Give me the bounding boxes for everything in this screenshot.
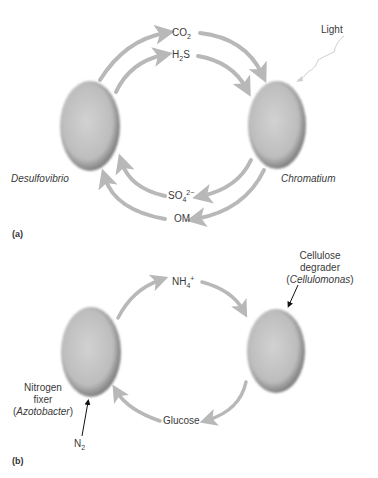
arrow-nh4-in xyxy=(202,282,243,310)
panel-b-label: (b) xyxy=(12,456,24,466)
chromatium-label: Chromatium xyxy=(281,173,335,185)
nh4-label: NH4+ xyxy=(172,276,194,288)
desulfovibrio-cell xyxy=(60,81,120,171)
panel-b-cells xyxy=(61,307,305,397)
chromatium-cell xyxy=(248,81,306,169)
h2s-tail: S xyxy=(183,49,190,60)
panel-a-label: (a) xyxy=(12,229,23,239)
panel-a-cells xyxy=(60,81,306,171)
so4-sup: 2− xyxy=(186,189,194,196)
arrow-nh4-out xyxy=(118,280,160,318)
arrow-so4-out xyxy=(202,160,251,196)
h2s-label: H2S xyxy=(172,49,190,61)
so4-sub: 4 xyxy=(182,196,186,203)
n2-label: N2 xyxy=(74,438,85,450)
cellulomonas-label: Cellulose degrader (Cellulomonas) xyxy=(280,250,360,286)
panel-b-arrows xyxy=(117,280,246,421)
co2-label: CO2 xyxy=(172,27,191,39)
azotobacter-name: Azotobacter xyxy=(16,406,69,417)
azotobacter-label: Nitrogen fixer (Azotobacter) xyxy=(10,382,76,418)
azotobacter-line2: fixer xyxy=(10,394,76,406)
n2-input-arrow-icon xyxy=(82,402,88,436)
arrow-glucose-out xyxy=(208,382,246,420)
azotobacter-line1: Nitrogen xyxy=(10,382,76,394)
cellulomonas-line1: Cellulose xyxy=(280,250,360,262)
cellulomonas-line2: degrader xyxy=(280,262,360,274)
cellulomonas-cell xyxy=(247,309,305,393)
so4-label: SO42− xyxy=(168,190,194,202)
co2-base: CO xyxy=(172,27,187,38)
so4-base: SO xyxy=(168,190,182,201)
nh4-sub: 4 xyxy=(186,282,190,289)
nh4-sup: + xyxy=(190,275,194,282)
arrow-glucose-in xyxy=(117,392,160,421)
glucose-label: Glucose xyxy=(163,415,200,427)
desulfovibrio-label: Desulfovibrio xyxy=(11,173,69,185)
cellulomonas-pointer-icon xyxy=(289,285,298,305)
co2-sub: 2 xyxy=(187,33,191,40)
nh4-base: NH xyxy=(172,276,186,287)
n2-sub: 2 xyxy=(81,444,85,451)
arrow-so4-in xyxy=(122,163,165,196)
light-ray-icon xyxy=(298,36,344,80)
om-label: OM xyxy=(174,213,190,225)
cellulomonas-name: Cellulomonas xyxy=(290,274,351,285)
arrow-h2s-in xyxy=(198,56,246,88)
arrow-h2s-out xyxy=(116,55,163,92)
light-label: Light xyxy=(321,24,343,36)
